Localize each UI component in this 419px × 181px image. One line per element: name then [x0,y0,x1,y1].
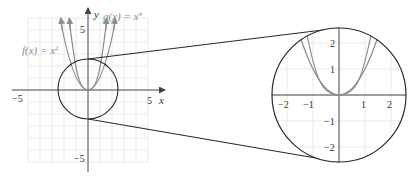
label-f-x-squared: f(x) = x2 [22,44,59,57]
curve-f-arrow-left [61,18,63,30]
inset-y-tick-neg1: −1 [324,116,335,127]
label-g-exponent: 4 [139,10,143,18]
label-g-lhs: g(x) = x [103,10,139,23]
inset-y-tick-2: 2 [330,38,335,49]
y-tick-neg5: −5 [74,153,85,164]
curve-g-arrow-left [69,18,70,30]
inset-y-tick-neg2: −2 [324,142,335,153]
main-plot: −5 5 x 5 −5 y f(x) = x2 g(x) = x4 [12,8,165,172]
x-tick-5: 5 [147,95,152,106]
inset-x-tick-1: 1 [361,99,366,110]
inset-x-tick-neg1: −1 [303,99,314,110]
label-f-lhs: f(x) = x [22,44,55,57]
inset-y-tick-1: 1 [330,64,335,75]
inset-x-tick-neg2: −2 [278,99,289,110]
inset-plot: −2 −1 1 2 2 1 −1 −2 [261,20,417,170]
y-axis-label: y [93,8,99,20]
zoom-diagram: −5 5 x 5 −5 y f(x) = x2 g(x) = x4 [0,0,419,181]
x-tick-neg5: −5 [12,93,23,104]
inset-x-tick-2: 2 [387,99,392,110]
x-axis-label: x [158,94,164,106]
label-g-x-fourth: g(x) = x4 [103,10,143,23]
label-f-exponent: 2 [55,44,59,52]
y-tick-5: 5 [80,24,85,35]
